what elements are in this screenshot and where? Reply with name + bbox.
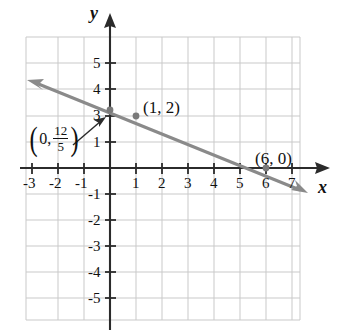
y-axis [104, 13, 116, 330]
x-tick-label-6: 6 [262, 176, 270, 191]
open-paren: ( [30, 125, 38, 152]
point-y-intercept [107, 107, 114, 114]
x-tick-label-7: 7 [288, 176, 296, 191]
fraction-denominator: 5 [57, 140, 66, 153]
y-tick-label-1: 1 [93, 135, 101, 150]
point-1-2 [133, 113, 140, 120]
x-tick-label-1: 1 [132, 176, 140, 191]
intercept-zero-text: 0, [39, 131, 51, 147]
fraction-numerator: 12 [53, 124, 68, 137]
x-tick-label-4: 4 [210, 176, 218, 191]
fraction-twelve-fifths: 12 5 [53, 124, 68, 153]
y-tick-label-5: 5 [93, 56, 101, 71]
y-tick-label--4: -4 [88, 265, 101, 280]
point-label-6-0: (6, 0) [255, 150, 292, 167]
point-label-1-2: (1, 2) [143, 99, 180, 116]
y-tick-label-4: 4 [93, 82, 101, 97]
y-tick-label--2: -2 [88, 213, 101, 228]
close-paren: ) [71, 125, 79, 152]
y-tick-label--3: -3 [88, 239, 101, 254]
x-tick-label--3: -3 [23, 176, 36, 191]
x-tick-label--2: -2 [49, 176, 62, 191]
coordinate-graph: y x -3 -2 -1 1 2 3 4 5 6 7 5 4 3 1 -1 -2… [0, 0, 343, 335]
x-tick-label-5: 5 [236, 176, 244, 191]
x-tick-label-3: 3 [184, 176, 192, 191]
y-axis-label: y [90, 4, 98, 22]
y-tick-label-3: 3 [93, 108, 101, 123]
point-label-y-intercept: ( 0, 12 5 ) [28, 124, 81, 153]
x-tick-label-2: 2 [158, 176, 166, 191]
y-tick-label--5: -5 [88, 291, 101, 306]
x-axis-label: x [318, 178, 327, 196]
y-tick-label--1: -1 [88, 187, 101, 202]
x-tick-label--1: -1 [75, 176, 88, 191]
